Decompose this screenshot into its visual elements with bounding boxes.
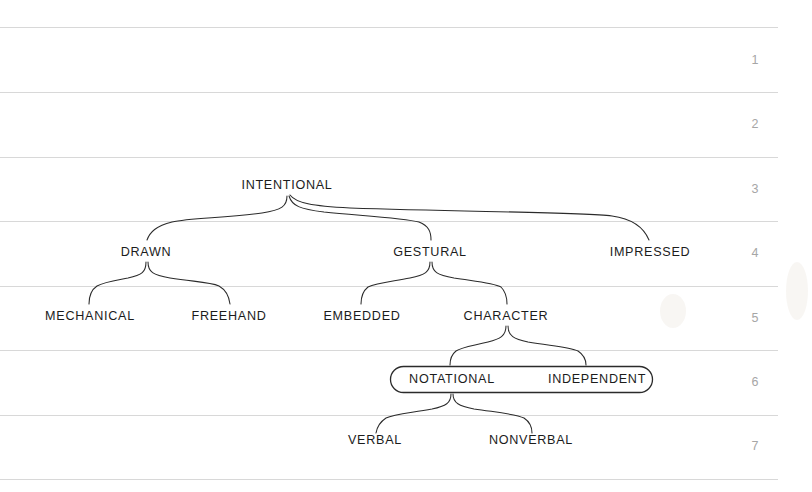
tree-node-impressed[interactable]: IMPRESSED [610,246,691,259]
row-number-7: 7 [752,440,759,453]
connector-notational-nonverbal [453,394,532,433]
connector-character-independent [508,326,586,365]
tree-node-freehand[interactable]: FREEHAND [191,310,266,323]
row-number-5: 5 [752,312,759,325]
tree-node-intentional[interactable]: INTENTIONAL [241,179,332,192]
tree-node-embedded[interactable]: EMBEDDED [323,310,400,323]
tree-node-mechanical[interactable]: MECHANICAL [45,310,135,323]
connector-intentional-gestural [289,196,431,240]
tree-node-nonverbal[interactable]: NONVERBAL [489,434,573,447]
connector-gestural-character [432,262,507,304]
row-number-1: 1 [752,54,759,67]
row-number-3: 3 [752,183,759,196]
tree-node-verbal[interactable]: VERBAL [348,434,402,447]
tree-node-drawn[interactable]: DRAWN [121,246,172,259]
connector-intentional-drawn [147,196,287,240]
connector-intentional-impressed [290,195,649,240]
connector-notational-verbal [376,394,451,433]
tree-node-notational[interactable]: NOTATIONAL [409,373,495,386]
connector-drawn-freehand [148,262,230,304]
connector-character-notational [450,326,506,365]
tree-node-character[interactable]: CHARACTER [464,310,549,323]
tree-node-gestural[interactable]: GESTURAL [393,246,467,259]
connector-gestural-embedded [361,262,430,304]
tree-node-independent[interactable]: INDEPENDENT [548,373,646,386]
row-number-6: 6 [752,376,759,389]
row-number-4: 4 [752,247,759,260]
row-number-2: 2 [752,118,759,131]
diagram-page: INTENTIONAL DRAWN GESTURAL IMPRESSED MEC… [0,0,812,492]
connector-drawn-mechanical [89,262,146,304]
